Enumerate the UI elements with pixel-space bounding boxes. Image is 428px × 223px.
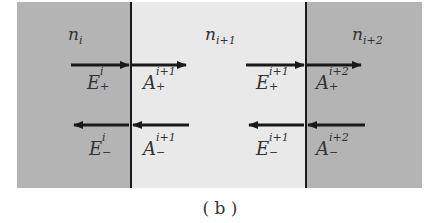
symbol-E-minus-i: Ei− — [89, 138, 102, 159]
symbol-A-minus-i2: Ai+2− — [316, 138, 329, 159]
symbol-E-plus-i: Ei+ — [87, 72, 100, 93]
symbol-A-minus-i1: Ai+1− — [143, 138, 156, 159]
wave-arrows — [0, 0, 428, 223]
symbol-E-minus-i1: Ei+1− — [256, 138, 269, 159]
symbol-A-plus-i1: Ai+1+ — [143, 72, 156, 93]
symbol-E-plus-i1: Ei+1+ — [256, 72, 269, 93]
symbol-A-plus-i2: Ai+2+ — [316, 72, 329, 93]
figure-caption: ( b ) — [0, 198, 428, 218]
